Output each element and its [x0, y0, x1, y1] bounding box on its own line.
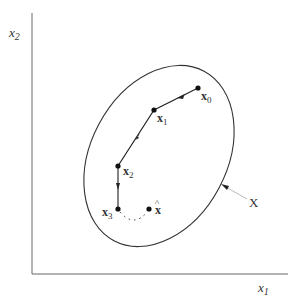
point-x0	[195, 85, 200, 90]
point-x3	[115, 206, 120, 211]
diagram-canvas: x2 x1 X x0 x1 x2 x3 ^ x	[0, 0, 303, 308]
feasible-set-ellipse	[54, 39, 264, 272]
set-label: X	[249, 195, 259, 210]
point-x2	[115, 163, 120, 168]
point-x-hat	[146, 206, 151, 211]
arrow-icon	[116, 183, 120, 190]
x-axis-label: x1	[257, 280, 269, 297]
label-x2: x2	[123, 164, 134, 180]
iterate-path	[118, 88, 198, 209]
dotted-convergence-curve	[120, 212, 147, 220]
label-x3: x3	[102, 205, 113, 221]
label-x0: x0	[201, 89, 212, 105]
label-x1: x1	[157, 111, 168, 127]
set-pointer-arrowhead	[221, 184, 229, 190]
y-axis-label: x2	[8, 25, 20, 42]
point-x1	[151, 107, 156, 112]
label-x-hat: x	[155, 203, 161, 217]
